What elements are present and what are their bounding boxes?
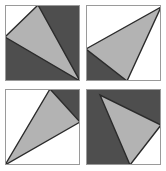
panel-top-left-canvas [5, 5, 80, 81]
figure-root [0, 0, 166, 171]
panel-bottom-right-canvas [86, 89, 161, 165]
panel-bottom-right [86, 89, 161, 165]
panel-grid [0, 0, 166, 171]
panel-bottom-left-canvas [5, 89, 80, 165]
panel-top-left [5, 5, 80, 81]
panel-top-right-canvas [86, 5, 161, 81]
panel-bottom-left [5, 89, 80, 165]
panel-top-right [86, 5, 161, 81]
